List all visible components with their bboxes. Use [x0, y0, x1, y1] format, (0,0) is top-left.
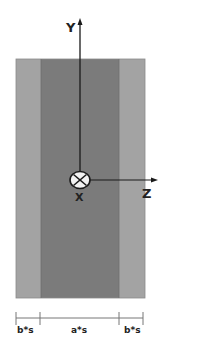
outer-right-layer [119, 59, 145, 298]
cross-section-diagram: Y Z X b*s a*s b*s [0, 0, 223, 348]
dimension-label-right: b*s [124, 325, 141, 335]
outer-left-layer [16, 59, 41, 298]
z-axis-arrow-icon [151, 178, 158, 183]
y-axis-label: Y [65, 20, 76, 35]
x-axis-label: X [75, 191, 84, 204]
z-axis-label: Z [142, 186, 151, 201]
x-axis-into-page-icon [70, 172, 90, 189]
dimension-line [16, 312, 143, 325]
y-axis-arrow-icon [78, 18, 83, 25]
dimension-label-center: a*s [71, 325, 87, 335]
dimension-label-left: b*s [17, 325, 34, 335]
